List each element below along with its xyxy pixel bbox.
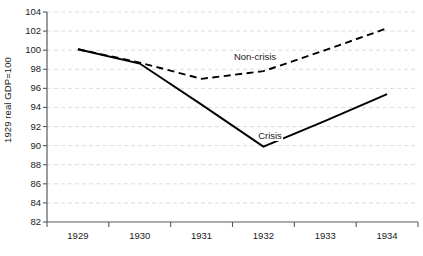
y-tick-label: 96 (15, 82, 41, 93)
series-annotation-non-crisis: Non-crisis (233, 51, 277, 62)
y-tick-label: 102 (15, 25, 41, 36)
axis-ticks (43, 12, 418, 227)
x-tick-label: 1934 (356, 230, 418, 241)
y-tick-label: 92 (15, 121, 41, 132)
series-line-crisis (78, 49, 387, 146)
series-lines (78, 28, 387, 146)
x-tick-label: 1929 (47, 230, 109, 241)
y-tick-label: 82 (15, 216, 41, 227)
gridlines (47, 12, 418, 203)
x-tick-label: 1930 (109, 230, 171, 241)
x-tick-label: 1933 (294, 230, 356, 241)
x-tick-label: 1931 (171, 230, 233, 241)
y-tick-label: 98 (15, 63, 41, 74)
y-tick-label: 88 (15, 159, 41, 170)
chart-container: 1929 real GDP=100 8284868890929496981001… (0, 0, 423, 256)
x-tick-label: 1932 (232, 230, 294, 241)
y-tick-label: 84 (15, 197, 41, 208)
y-tick-label: 94 (15, 101, 41, 112)
series-annotation-crisis: Crisis (257, 130, 283, 141)
plot-area (0, 0, 423, 256)
y-tick-label: 104 (15, 6, 41, 17)
y-tick-label: 100 (15, 44, 41, 55)
y-tick-label: 90 (15, 140, 41, 151)
y-tick-label: 86 (15, 178, 41, 189)
